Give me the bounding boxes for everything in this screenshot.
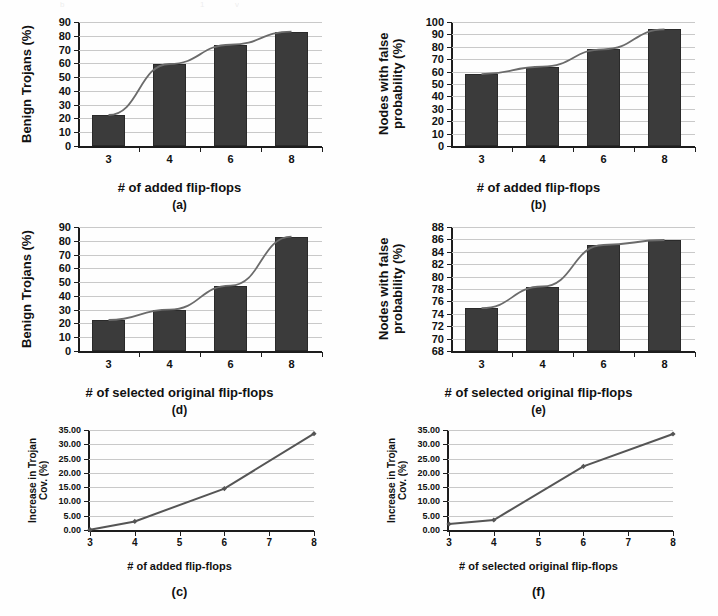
panel-f-xtick-label: 3 [446, 537, 452, 548]
panel-e-ytick-label: 68 [432, 345, 444, 357]
panel-a-ytick-label: 80 [59, 30, 71, 42]
panel-e-ytick-label: 80 [432, 271, 444, 283]
panel-e-ytick-label: 70 [432, 333, 444, 345]
panel-c-xtick-label: 7 [266, 537, 272, 548]
panel-f-ytick-label: 15.00 [417, 482, 440, 492]
panel-e-trend-line [451, 227, 695, 353]
panel-a-xtick-label: 3 [105, 153, 111, 165]
panel-f: Increase in Trojan Cov. (%) 0.005.0010.0… [359, 412, 718, 612]
panel-b-ytick-label: 20 [432, 115, 444, 127]
panel-c-ylabel: Increase in Trojan Cov. (%) [28, 426, 49, 534]
figure-row-3: Increase in Trojan Cov. (%) 0.005.0010.0… [0, 412, 718, 612]
panel-d-xlabel: # of selected original flip-flops [0, 385, 359, 400]
panel-c-ytick-label: 20.00 [58, 468, 81, 478]
panel-a-ytick-label: 70 [59, 44, 71, 56]
panel-d-xtick-mark [322, 352, 323, 357]
panel-f-data-line [447, 430, 673, 532]
panel-b-ytick-label: 90 [432, 28, 444, 40]
panel-b-trend-line [451, 22, 695, 148]
panel-d-plot: 01020304050607080903468 [78, 227, 322, 353]
panel-a-ytick-label: 0 [65, 140, 71, 152]
panel-f-ytick-label: 25.00 [417, 454, 440, 464]
panel-b-ytick-label: 10 [432, 128, 444, 140]
panel-a-xlabel: # of added flip-flops [0, 180, 359, 195]
panel-a-ytick-label: 10 [59, 126, 71, 138]
panel-c-xtick-label: 4 [132, 537, 138, 548]
panel-a-ytick-label: 30 [59, 99, 71, 111]
panel-e: Nodes with false probability (%) 6870727… [359, 213, 718, 411]
panel-b-xtick-label: 6 [600, 153, 606, 165]
panel-c-ytick-label: 15.00 [58, 482, 81, 492]
panel-a-ytick-label: 60 [59, 57, 71, 69]
panel-d-ytick-label: 0 [65, 345, 71, 357]
panel-e-ytick-label: 84 [432, 246, 444, 258]
panel-f-ytick-label: 20.00 [417, 468, 440, 478]
panel-b-xtick-mark [695, 147, 696, 152]
panel-c-xtick-label: 3 [87, 537, 93, 548]
panel-c-xlabel: # of added flip-flops [0, 560, 359, 572]
panel-e-plot: 68707274767880828486883468 [451, 227, 695, 353]
panel-b-xlabel: # of added flip-flops [359, 180, 718, 195]
panel-c: Increase in Trojan Cov. (%) 0.005.0010.0… [0, 412, 359, 612]
panel-e-xtick-label: 8 [661, 358, 667, 370]
panel-a-ytick-label: 50 [59, 71, 71, 83]
scan-artifact: b 1 v [60, 0, 360, 8]
panel-f-ytick-label: 10.00 [417, 496, 440, 506]
panel-a-xtick-mark [322, 147, 323, 152]
panel-b-ytick-label: 30 [432, 103, 444, 115]
panel-a: Benign Trojans (%) 010203040506070809034… [0, 8, 359, 208]
panel-c-ytick-label: 5.00 [63, 511, 81, 521]
panel-e-xtick-label: 4 [539, 358, 545, 370]
svg-text:v: v [235, 0, 239, 8]
panel-b-xtick-label: 4 [539, 153, 545, 165]
panel-d-xtick-label: 4 [166, 358, 172, 370]
figure-row-2: Benign Trojans (%) 010203040506070809034… [0, 213, 718, 411]
panel-c-data-line [88, 430, 314, 532]
panel-e-ytick-label: 86 [432, 233, 444, 245]
panel-d-trend-line [78, 227, 322, 353]
panel-f-xtick-label: 4 [491, 537, 497, 548]
panel-c-xtick-mark [314, 531, 315, 536]
panel-f-ylabel: Increase in Trojan Cov. (%) [387, 426, 408, 534]
panel-d-ytick-label: 10 [59, 331, 71, 343]
panel-f-xtick-label: 5 [536, 537, 542, 548]
panel-d-ytick-label: 30 [59, 304, 71, 316]
panel-c-plot: 0.005.0010.0015.0020.0025.0030.0035.0034… [88, 430, 314, 532]
panel-b-ytick-label: 60 [432, 66, 444, 78]
panel-c-xtick-label: 5 [177, 537, 183, 548]
panel-e-xtick-label: 3 [478, 358, 484, 370]
panel-e-xlabel: # of selected original flip-flops [359, 385, 718, 400]
panel-c-ytick-label: 0.00 [63, 525, 81, 535]
panel-a-xtick-label: 8 [288, 153, 294, 165]
panel-e-ytick-label: 78 [432, 283, 444, 295]
panel-b-ytick-label: 70 [432, 53, 444, 65]
panel-a-caption: (a) [0, 198, 359, 212]
panel-a-ytick-label: 90 [59, 16, 71, 28]
panel-b-ytick-label: 40 [432, 90, 444, 102]
panel-c-xtick-label: 6 [222, 537, 228, 548]
panel-d-ytick-label: 40 [59, 290, 71, 302]
panel-c-xtick-label: 8 [311, 537, 317, 548]
panel-d-ylabel: Benign Trojans (%) [20, 219, 34, 359]
panel-f-ytick-label: 35.00 [417, 425, 440, 435]
panel-b-ytick-label: 50 [432, 78, 444, 90]
panel-f-xtick-mark [673, 531, 674, 536]
figure-canvas: b 1 v Benign Trojans (%) 010203040506070… [0, 0, 718, 616]
panel-b-ytick-label: 100 [426, 16, 444, 28]
panel-e-ytick-label: 88 [432, 221, 444, 233]
panel-c-caption: (c) [0, 584, 359, 599]
panel-f-ytick-label: 30.00 [417, 439, 440, 449]
panel-d-ytick-label: 60 [59, 262, 71, 274]
panel-e-xtick-mark [695, 352, 696, 357]
panel-e-xtick-label: 6 [600, 358, 606, 370]
panel-d-xtick-label: 8 [288, 358, 294, 370]
panel-a-xtick-label: 6 [227, 153, 233, 165]
panel-b-xtick-label: 8 [661, 153, 667, 165]
panel-c-ytick-label: 30.00 [58, 439, 81, 449]
panel-a-ylabel: Benign Trojans (%) [20, 14, 34, 154]
panel-b-ylabel: Nodes with false probability (%) [377, 14, 404, 154]
panel-f-xtick-label: 8 [670, 537, 676, 548]
panel-a-ytick-label: 20 [59, 112, 71, 124]
panel-d-xtick-label: 3 [105, 358, 111, 370]
panel-d-ytick-label: 20 [59, 317, 71, 329]
